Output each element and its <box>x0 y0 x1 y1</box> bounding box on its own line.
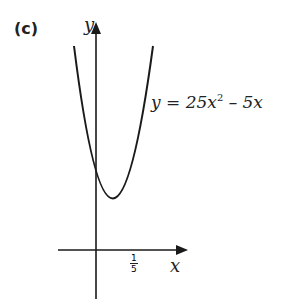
x-axis-arrow-icon <box>176 245 188 255</box>
parabola-curve <box>74 46 153 199</box>
equation-lhs: y = 25x <box>151 92 217 112</box>
x-intercept-label: 1 5 <box>130 253 138 274</box>
equation-rhs: – 5x <box>223 92 263 112</box>
fraction-numerator: 1 <box>130 253 138 264</box>
equation-label: y = 25x2 – 5x <box>151 92 263 112</box>
y-axis-label: y <box>84 14 94 35</box>
fraction-denominator: 5 <box>130 264 138 274</box>
x-axis-label: x <box>170 255 180 276</box>
parabola-graph <box>0 0 301 299</box>
